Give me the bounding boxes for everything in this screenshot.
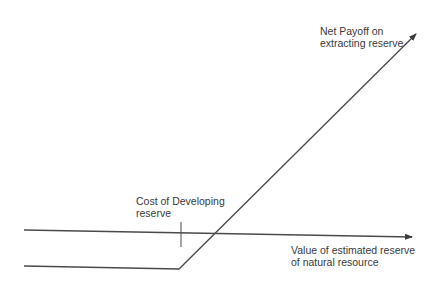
payoff-label: Net Payoff on extracting reserve — [320, 25, 403, 49]
payoff-label-line-1: Net Payoff on — [320, 25, 403, 37]
axis-label-line-1: Value of estimated reserve — [291, 244, 415, 256]
axis-label: Value of estimated reserve of natural re… — [291, 244, 415, 268]
cost-label: Cost of Developing reserve — [136, 195, 225, 219]
cost-label-line-1: Cost of Developing — [136, 195, 225, 207]
axis-label-line-2: of natural resource — [291, 256, 415, 268]
payoff-label-line-2: extracting reserve — [320, 37, 403, 49]
cost-label-line-2: reserve — [136, 207, 225, 219]
